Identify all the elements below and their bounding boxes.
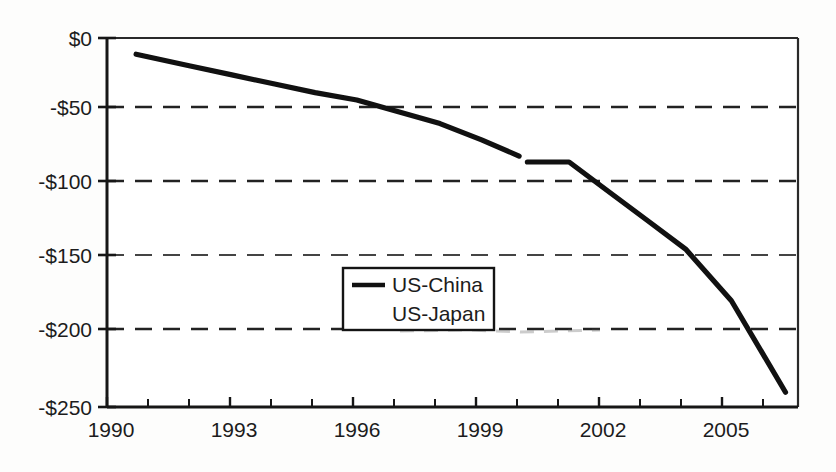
y-tick-label-minus100: -$100 [38, 170, 92, 193]
legend-label-us-china[interactable]: US-China [392, 273, 483, 296]
y-tick-label-minus150: -$150 [38, 244, 92, 267]
chart-figure: $0 -$50 -$100 -$150 -$200 -$250 1990 199… [0, 0, 836, 472]
x-tick-label-1993: 1993 [211, 418, 258, 441]
x-tick-label-2005: 2005 [703, 418, 750, 441]
plot-area-background [107, 38, 798, 407]
x-axis-tick-labels: 1990 1993 1996 1999 2002 2005 [88, 418, 750, 441]
x-tick-label-2002: 2002 [580, 418, 627, 441]
x-tick-label-1990: 1990 [88, 418, 135, 441]
legend-label-us-japan[interactable]: US-Japan [392, 302, 485, 325]
y-tick-label-minus200: -$200 [38, 318, 92, 341]
y-tick-label-minus250: -$250 [38, 396, 92, 419]
y-tick-label-0: $0 [69, 27, 92, 50]
legend[interactable]: US-China US-Japan [343, 268, 494, 330]
y-axis-tick-labels: $0 -$50 -$100 -$150 -$200 -$250 [38, 27, 92, 419]
x-tick-label-1996: 1996 [334, 418, 381, 441]
y-tick-label-minus50: -$50 [50, 96, 92, 119]
x-tick-label-1999: 1999 [457, 418, 504, 441]
line-chart: $0 -$50 -$100 -$150 -$200 -$250 1990 199… [0, 0, 836, 472]
